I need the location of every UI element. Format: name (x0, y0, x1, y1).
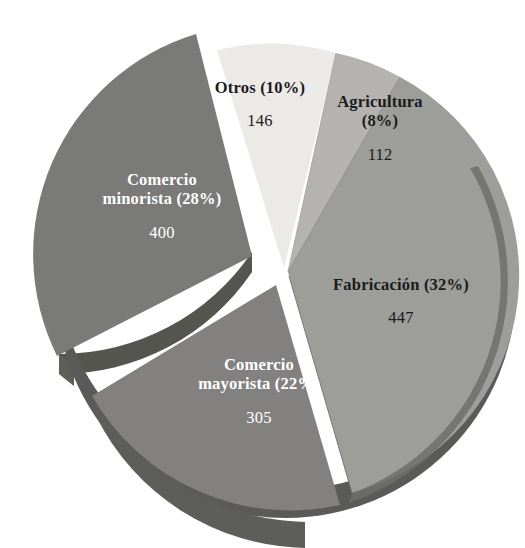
pie-chart: Otros (10%) 146 Agricultura (8%) 112 Fab… (0, 0, 525, 548)
pie-chart-canvas (0, 0, 525, 548)
